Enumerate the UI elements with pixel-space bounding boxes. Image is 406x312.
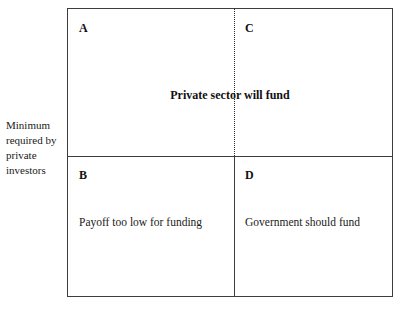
figure-canvas: Minimum required by private investors A … [0,0,406,312]
vertical-divider-dotted [234,9,235,156]
quadrant-label-c: C [245,22,254,34]
vertical-divider-solid [234,156,235,296]
quadrant-caption-b: Payoff too low for funding [79,216,229,230]
top-half-banner-text: Private sector will fund [68,89,392,102]
horizontal-divider [68,156,392,157]
axis-caption-minimum-required: Minimum required by private investors [6,118,66,178]
quadrant-matrix: A C B D Private sector will fund Payoff … [67,8,393,297]
quadrant-label-b: B [79,169,87,181]
quadrant-caption-d: Government should fund [245,216,395,230]
quadrant-label-d: D [245,169,254,181]
quadrant-label-a: A [79,22,88,34]
